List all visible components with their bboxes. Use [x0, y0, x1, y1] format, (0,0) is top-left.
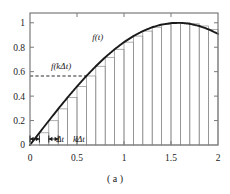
- x-tick-label: 1.5: [165, 153, 177, 163]
- riemann-sum-chart: 00.511.5200.20.40.60.81 f(t) f(kΔt) Δt k…: [0, 0, 230, 194]
- x-tick-label: 1: [122, 153, 127, 163]
- y-tick-label: 0: [20, 140, 25, 150]
- y-tick-label: 0.4: [13, 92, 25, 102]
- y-tick-label: 0.8: [13, 43, 25, 53]
- delta-t-label: Δt: [55, 134, 64, 144]
- sample-value-label: f(kΔt): [51, 61, 71, 71]
- x-tick-label: 0: [28, 153, 33, 163]
- x-tick-label: 2: [216, 153, 221, 163]
- x-tick-label: 0.5: [71, 153, 83, 163]
- y-tick-label: 1: [20, 18, 25, 28]
- y-tick-label: 0.6: [13, 67, 25, 77]
- curve-label: f(t): [92, 32, 103, 42]
- figure-caption: ( a ): [107, 173, 123, 185]
- k-delta-t-label: kΔt: [73, 134, 85, 144]
- y-tick-label: 0.2: [13, 116, 25, 126]
- figure-container: 00.511.5200.20.40.60.81 f(t) f(kΔt) Δt k…: [0, 0, 230, 194]
